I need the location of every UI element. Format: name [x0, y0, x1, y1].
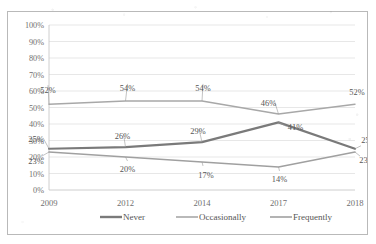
series-line-frequently [49, 152, 355, 167]
legend-label-occasionally: Occasionally [199, 212, 246, 222]
data-label-occasionally-2009: 52% [40, 86, 55, 95]
data-label-occasionally-2012: 54% [120, 84, 135, 93]
y-axis-tick-label: 50% [29, 104, 44, 113]
line-chart: 100%90%80%70%60%50%40%30%20%10%0% 200920… [8, 12, 367, 234]
data-label-never-2009: 25% [28, 135, 43, 144]
x-axis-tick-label: 2014 [193, 198, 211, 208]
data-label-occasionally-2018: 52% [349, 88, 364, 97]
chart-frame: 100%90%80%70%60%50%40%30%20%10%0% 200920… [7, 11, 368, 235]
data-label-frequently-2009: 23% [28, 157, 43, 166]
data-point-labels: 25%26%29%41%25%52%54%54%46%52%23%20%17%1… [28, 84, 367, 184]
data-label-frequently-2017: 14% [272, 175, 287, 184]
chart-legend: NeverOccasionallyFrequently [100, 212, 332, 222]
data-label-frequently-2018: 23% [359, 156, 367, 165]
data-label-frequently-2014: 17% [198, 171, 213, 180]
y-axis-tick-labels: 100%90%80%70%60%50%40%30%20%10%0% [25, 21, 44, 195]
y-axis-tick-label: 70% [29, 71, 44, 80]
legend-label-frequently: Frequently [293, 212, 332, 222]
y-axis-tick-label: 90% [29, 38, 44, 47]
data-label-never-2012: 26% [115, 132, 130, 141]
x-axis-tick-labels: 20092012201420172018 [40, 198, 363, 208]
x-axis-tick-label: 2012 [117, 198, 134, 208]
x-axis-tick-label: 2009 [40, 198, 57, 208]
label-leader-line [355, 146, 361, 149]
y-axis-tick-label: 40% [29, 120, 44, 129]
x-axis-tick-label: 2017 [270, 198, 288, 208]
data-label-never-2014: 29% [190, 127, 205, 136]
y-axis-tick-label: 0% [33, 186, 44, 195]
y-axis-tick-label: 10% [29, 170, 44, 179]
x-axis-tick-label: 2018 [346, 198, 363, 208]
y-axis-tick-label: 80% [29, 54, 44, 63]
y-axis-tick-label: 100% [25, 21, 44, 30]
data-label-never-2017: 41% [288, 123, 303, 132]
data-label-occasionally-2014: 54% [195, 84, 210, 93]
legend-label-never: Never [123, 212, 145, 222]
data-label-occasionally-2017: 46% [261, 99, 276, 108]
data-label-never-2018: 25% [361, 136, 367, 145]
data-label-frequently-2012: 20% [120, 165, 135, 174]
